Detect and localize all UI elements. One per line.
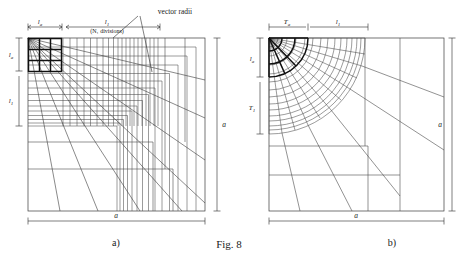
panel-a-vector-radii-annotation: vector radii — [158, 7, 192, 16]
figure-svg: la l1 (N₁ divisions) la l1 a a vector ra… — [0, 0, 459, 257]
panel-a-caption: a) — [112, 237, 120, 249]
panel-a-divisions-note: (N₁ divisions) — [90, 28, 124, 35]
panel-b-label-bottom-a: a — [354, 211, 358, 220]
figure-8-container: la l1 (N₁ divisions) la l1 a a vector ra… — [0, 0, 459, 257]
panel-b-caption: b) — [388, 237, 396, 249]
figure-caption: Fig. 8 — [216, 238, 242, 250]
panel-b-label-right-a: a — [438, 120, 442, 129]
canvas-background — [0, 0, 459, 257]
panel-a-label-bottom-a: a — [114, 211, 118, 220]
panel-a-label-right-a: a — [222, 120, 226, 129]
